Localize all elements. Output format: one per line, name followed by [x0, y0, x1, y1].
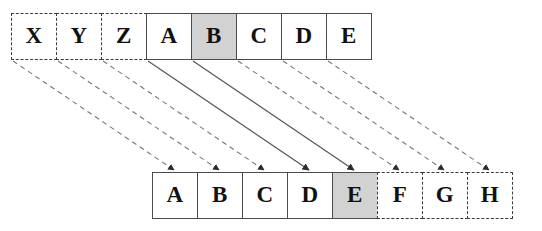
dest-cell-b: B: [197, 172, 243, 219]
cell-label: E: [341, 24, 357, 47]
arrow-y-to-b: [58, 61, 219, 170]
destination-row: A B C D E F G H: [152, 172, 512, 219]
cell-label: B: [206, 24, 222, 47]
arrow-x-to-a: [13, 61, 174, 170]
source-cell-a: A: [146, 13, 192, 60]
dest-cell-f: F: [377, 172, 423, 219]
cell-label: C: [250, 24, 267, 47]
cell-label: X: [25, 24, 42, 47]
cell-label: C: [256, 183, 273, 206]
dest-cell-c: C: [242, 172, 288, 219]
cell-label: G: [436, 183, 454, 206]
cell-label: F: [393, 183, 408, 206]
cell-label: Z: [116, 24, 132, 47]
arrow-c-to-f: [238, 61, 399, 170]
source-cell-z: Z: [101, 13, 147, 60]
dest-cell-g: G: [422, 172, 468, 219]
cell-label: B: [212, 183, 228, 206]
arrow-layer: [13, 61, 489, 170]
source-cell-y: Y: [56, 13, 102, 60]
cell-label: Y: [70, 24, 87, 47]
cell-label: D: [301, 183, 318, 206]
source-cell-d: D: [281, 13, 327, 60]
dest-cell-a: A: [152, 172, 198, 219]
dest-cell-d: D: [287, 172, 333, 219]
arrow-a-to-d: [148, 61, 309, 170]
arrow-z-to-c: [103, 61, 264, 170]
source-cell-x: X: [11, 13, 57, 60]
dest-cell-h: H: [467, 172, 513, 219]
cell-label: A: [166, 183, 183, 206]
arrow-e-to-h: [328, 61, 489, 170]
source-cell-e: E: [326, 13, 372, 60]
cell-label: D: [295, 24, 312, 47]
diagram-canvas: X Y Z A B C D E A B C D E F G H: [0, 0, 542, 231]
source-cell-b: B: [191, 13, 237, 60]
source-row: X Y Z A B C D E: [11, 13, 371, 60]
arrow-b-to-e: [193, 61, 354, 170]
arrow-d-to-g: [283, 61, 444, 170]
cell-label: A: [160, 24, 177, 47]
cell-label: H: [481, 183, 499, 206]
source-cell-c: C: [236, 13, 282, 60]
cell-label: E: [347, 183, 363, 206]
dest-cell-e: E: [332, 172, 378, 219]
